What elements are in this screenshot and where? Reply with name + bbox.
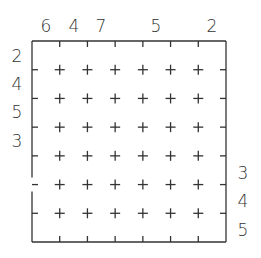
right-clue: 5 <box>238 222 249 239</box>
top-clue: 7 <box>96 18 107 35</box>
left-clue: 3 <box>12 133 23 150</box>
left-clue: 5 <box>12 104 23 121</box>
top-clue: 5 <box>151 18 162 35</box>
top-clue: 6 <box>41 18 52 35</box>
top-clue: 4 <box>69 18 80 35</box>
left-clue: 2 <box>12 48 23 65</box>
left-clue: 4 <box>12 76 23 93</box>
right-clue: 3 <box>238 165 249 182</box>
grid-lines <box>0 0 261 258</box>
top-clue: 2 <box>207 18 218 35</box>
right-clue: 4 <box>238 193 249 210</box>
